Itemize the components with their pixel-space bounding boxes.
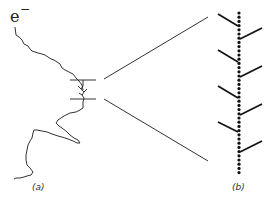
ionization-dot: [237, 32, 240, 35]
ionization-dot: [237, 49, 240, 52]
ionization-dot: [237, 171, 240, 174]
delta-ray-right-2: [240, 66, 262, 77]
ionization-dot: [237, 116, 240, 119]
ionization-dot: [237, 83, 240, 86]
ionization-dot: [237, 167, 240, 170]
ionization-dot: [237, 108, 240, 111]
ionization-dot: [237, 142, 240, 145]
ionization-dot: [237, 66, 240, 69]
ionization-dot: [237, 11, 240, 14]
ionization-dot: [237, 104, 240, 107]
ionization-dot: [237, 158, 240, 161]
electron-symbol: e: [10, 7, 19, 26]
ionization-dot: [237, 20, 240, 23]
electron-charge: −: [20, 2, 30, 16]
ionization-dot: [237, 53, 240, 56]
ionization-dot: [237, 28, 240, 31]
electron-track-lower: [14, 102, 83, 179]
panel-label-b: (b): [232, 182, 245, 192]
ionization-dot: [237, 163, 240, 166]
zoom-projection-lower: [104, 99, 208, 161]
ionization-dot: [237, 79, 240, 82]
delta-ray-right-1: [240, 28, 262, 39]
ionization-dot: [237, 121, 240, 124]
delta-ray-left-4: [218, 122, 238, 132]
ionization-dot: [237, 87, 240, 90]
ionization-dot: [237, 133, 240, 136]
ionization-dot: [237, 154, 240, 157]
delta-ray-left-3: [218, 86, 238, 98]
ionization-dot: [237, 146, 240, 149]
panel-label-a: (a): [32, 182, 45, 192]
ionization-dot: [237, 100, 240, 103]
delta-ray-left-2: [218, 50, 238, 62]
ionization-dot: [237, 45, 240, 48]
ionization-dot: [237, 137, 240, 140]
delta-ray-right-4: [240, 141, 262, 152]
ionization-dot: [237, 16, 240, 19]
delta-ray-left-1: [218, 14, 238, 26]
ionization-dot: [237, 125, 240, 128]
ionization-dot: [237, 58, 240, 61]
ionization-dot: [237, 62, 240, 65]
ionization-dot: [237, 41, 240, 44]
delta-ray-branch: [79, 93, 82, 95]
electron-track: [15, 27, 83, 90]
ionization-dot: [237, 70, 240, 73]
delta-ray-right-3: [240, 104, 262, 115]
delta-ray-branch: [84, 89, 87, 92]
diagram-canvas: e − (a) (b): [0, 0, 271, 202]
zoom-projection-upper: [104, 17, 208, 79]
ionization-dot: [237, 91, 240, 94]
delta-ray-branch: [78, 86, 81, 89]
ionization-dots: [237, 11, 240, 174]
